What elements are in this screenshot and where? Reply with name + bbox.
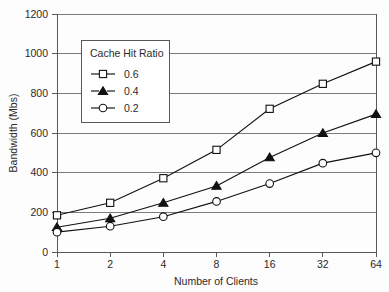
legend-entry-label: 0.6 bbox=[124, 68, 139, 80]
y-axis-tick-label: 600 bbox=[30, 127, 48, 139]
legend-marker bbox=[99, 104, 107, 112]
x-axis-title: Number of Clients bbox=[174, 275, 258, 287]
series-line bbox=[57, 153, 376, 232]
y-axis-title: Bandwidth (Mbs) bbox=[7, 94, 19, 173]
legend-title: Cache Hit Ratio bbox=[90, 47, 164, 59]
series-0.2 bbox=[53, 149, 380, 236]
legend-entry-label: 0.4 bbox=[124, 85, 139, 97]
data-point-marker bbox=[213, 198, 221, 206]
data-point-marker bbox=[53, 212, 60, 219]
x-axis-tick-label: 4 bbox=[160, 258, 166, 270]
x-axis-tick-label: 16 bbox=[264, 258, 276, 270]
x-axis-tick-label: 1 bbox=[54, 258, 60, 270]
data-point-marker bbox=[266, 180, 274, 188]
legend-marker bbox=[99, 70, 106, 77]
data-point-marker bbox=[266, 105, 273, 112]
data-point-marker bbox=[318, 129, 327, 137]
y-axis-tick-label: 1200 bbox=[25, 8, 49, 20]
data-point-marker bbox=[265, 153, 274, 161]
legend-entry-label: 0.2 bbox=[124, 102, 139, 114]
data-point-marker bbox=[107, 199, 114, 206]
bandwidth-line-chart: 020040060080010001200 1248163264 Number … bbox=[0, 0, 389, 292]
y-axis-tick-group: 020040060080010001200 bbox=[25, 8, 57, 258]
data-point-marker bbox=[319, 159, 327, 167]
data-point-marker bbox=[106, 222, 114, 230]
x-axis-tick-label: 32 bbox=[317, 258, 329, 270]
x-axis-tick-label: 2 bbox=[107, 258, 113, 270]
data-point-marker bbox=[212, 182, 221, 190]
x-axis-tick-label: 8 bbox=[214, 258, 220, 270]
y-axis-tick-label: 1000 bbox=[25, 47, 49, 59]
data-point-marker bbox=[213, 146, 220, 153]
y-axis-tick-label: 400 bbox=[30, 166, 48, 178]
y-axis-tick-label: 200 bbox=[30, 206, 48, 218]
series-line bbox=[57, 114, 376, 227]
chart-canvas: 020040060080010001200 1248163264 Number … bbox=[0, 0, 389, 292]
y-axis-tick-label: 800 bbox=[30, 87, 48, 99]
x-axis-tick-group: 1248163264 bbox=[54, 252, 382, 270]
data-point-marker bbox=[53, 228, 61, 236]
data-point-marker bbox=[319, 80, 326, 87]
data-point-marker bbox=[372, 58, 379, 65]
x-axis-tick-label: 64 bbox=[370, 258, 382, 270]
data-point-marker bbox=[160, 175, 167, 182]
legend: Cache Hit Ratio 0.60.40.2 bbox=[81, 40, 169, 122]
data-point-marker bbox=[372, 149, 380, 157]
data-point-marker bbox=[371, 110, 380, 118]
y-axis-tick-label: 0 bbox=[42, 246, 48, 258]
data-point-marker bbox=[160, 213, 168, 221]
